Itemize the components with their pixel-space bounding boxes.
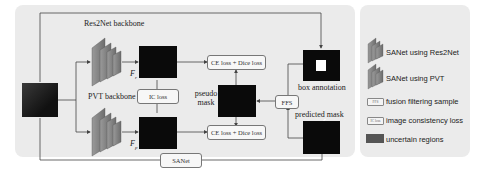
legend-res2net-stack-icon xyxy=(368,38,383,63)
uncertain-region-swatch xyxy=(366,134,384,143)
ffs-box-icon: FFS xyxy=(367,98,384,106)
ce-dice-loss-top-box: CE loss + Dice loss xyxy=(207,55,266,70)
res2net-backbone-label: Res2Net backbone xyxy=(84,20,144,28)
legend-label-ffs: fusion filtering sample xyxy=(386,97,459,106)
pvt-backbone-label: PVT backbone xyxy=(88,93,136,101)
input-image xyxy=(22,83,58,117)
legend-label-ic-loss: image consistency loss xyxy=(386,116,463,125)
res2net-backbone-icon xyxy=(92,38,121,86)
pvt-backbone-icon xyxy=(92,108,121,156)
ic-loss-box: IC loss xyxy=(137,89,179,104)
box-annotation-label: box annotation xyxy=(298,84,346,92)
box-annotation-white-box xyxy=(316,60,326,71)
feature-fr-label: Fr xyxy=(130,70,137,80)
predicted-mask-image xyxy=(303,121,340,154)
legend-label-uncertain: uncertain regions xyxy=(386,135,444,144)
legend-pvt-stack-icon xyxy=(368,64,383,89)
legend-label-pvt: SANet using PVT xyxy=(386,74,444,83)
legend-label-res2net: SANet using Res2Net xyxy=(386,48,459,57)
predicted-mask-label: predicted mask xyxy=(295,111,344,119)
pseudo-mask-label: pseudo mask xyxy=(192,90,220,108)
ce-dice-loss-bottom-box: CE loss + Dice loss xyxy=(207,125,266,140)
ic-loss-box-icon: IC loss xyxy=(367,117,384,125)
ffs-box: FFS xyxy=(275,95,299,109)
pseudo-mask-image xyxy=(218,85,256,117)
feature-fp-label: Fp xyxy=(130,140,137,150)
feature-map-pvt xyxy=(139,117,177,149)
sanet-box: SANet xyxy=(160,153,202,168)
feature-map-res2net xyxy=(139,46,177,78)
